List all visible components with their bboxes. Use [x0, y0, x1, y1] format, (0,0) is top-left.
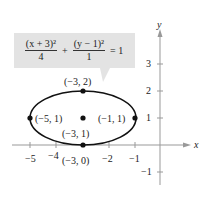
denominator: 1: [86, 51, 91, 63]
x-axis-arrow-icon: [183, 143, 191, 148]
callout-pointer: [100, 68, 110, 82]
point-label: (−3, 1): [62, 128, 89, 140]
vertex-left-point: [27, 115, 32, 120]
point-label: (−1, 1): [98, 113, 125, 125]
ellipse-chart: x y −5 −4 −2 −1 3 2 1 −1 (−3, 2) (−5, 1)…: [0, 0, 204, 197]
y-tick-label: 3: [146, 58, 151, 69]
x-tick-label: −1: [129, 153, 140, 164]
y-tick-label: −1: [141, 166, 152, 177]
x-tick-label: −2: [102, 153, 113, 164]
center-point: [80, 115, 85, 120]
fraction-term2: (y − 1)² 1: [73, 38, 105, 63]
y-tick-label: 1: [146, 112, 151, 123]
point-label: (−3, 2): [64, 76, 91, 88]
vertex-right-point: [132, 115, 137, 120]
x-axis-label: x: [193, 139, 199, 150]
x-tick-label: −5: [25, 153, 36, 164]
equation-rhs: = 1: [110, 45, 123, 56]
equation-callout: (x + 3)² 4 + (y − 1)² 1 = 1: [14, 33, 135, 68]
vertex-bottom-point: [80, 142, 85, 147]
y-axis-arrow-icon: [158, 29, 163, 37]
x-tick-label: −4: [48, 150, 59, 161]
denominator: 4: [38, 51, 43, 63]
fraction-term1: (x + 3)² 4: [25, 38, 57, 63]
point-label: (−3, 0): [62, 155, 89, 167]
y-tick-label: 2: [146, 85, 151, 96]
numerator: (y − 1)²: [73, 38, 105, 51]
y-axis-label: y: [156, 19, 162, 30]
point-label: (−5, 1): [35, 113, 62, 125]
vertex-top-point: [80, 88, 85, 93]
plus-sign: +: [62, 45, 68, 56]
numerator: (x + 3)²: [25, 38, 57, 51]
